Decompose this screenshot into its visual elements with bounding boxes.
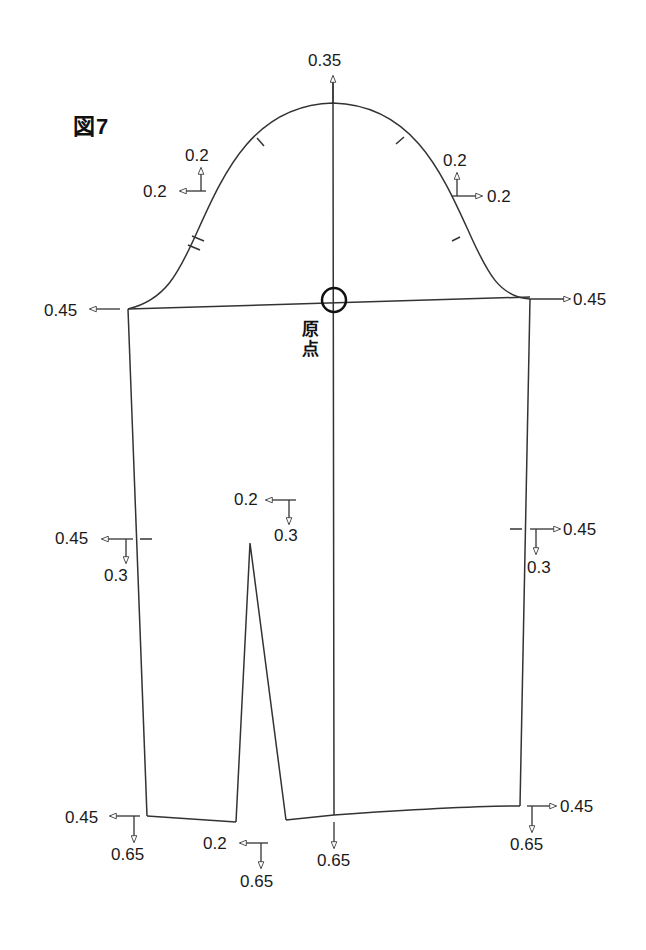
grade-hem-dart-left: 0.2 [203,835,227,852]
grade-hem-left-left: 0.45 [65,809,98,826]
grade-hem-dart-down: 0.65 [240,873,273,890]
elbow-dart [236,543,286,822]
bicep-line [128,297,530,309]
grade-elbow-left-left: 0.45 [55,530,88,547]
notch-mark [396,137,404,144]
grade-hem-right-right: 0.45 [560,798,593,815]
right-underarm-seam [520,299,530,806]
grade-dart-top-left: 0.2 [234,491,258,508]
left-underarm-seam [128,309,147,816]
hem-line-right [286,806,520,820]
grade-hem-left-down: 0.65 [111,846,144,863]
grade-elbow-right-down: 0.3 [527,559,551,576]
grade-hem-center-down: 0.65 [317,852,350,869]
hem-line-left [147,816,236,822]
grade-elbow-right-right: 0.45 [563,521,596,538]
notch-mark [452,237,460,241]
sleeve-pattern-diagram: 図7 原 点 0.35 0.2 0.2 0.2 0.2 0.45 0.45 0.… [0,0,646,950]
center-grain-line [333,80,334,815]
notch-mark [257,138,264,146]
grade-hem-right-down: 0.65 [510,836,543,853]
figure-title: 図7 [73,108,109,140]
grade-underarm-right: 0.45 [573,291,606,308]
grade-cap-right-up: 0.2 [443,152,467,169]
sleeve-cap-curve [128,103,530,309]
grade-underarm-left: 0.45 [44,302,77,319]
grade-cap-right-right: 0.2 [487,188,511,205]
grade-dart-top-down: 0.3 [274,527,298,544]
grade-cap-left-up: 0.2 [185,147,209,164]
origin-label: 原 点 [300,320,320,360]
grade-elbow-left-down: 0.3 [104,567,128,584]
grade-cap-left-left: 0.2 [143,183,167,200]
grade-cap-top-up: 0.35 [308,52,341,69]
